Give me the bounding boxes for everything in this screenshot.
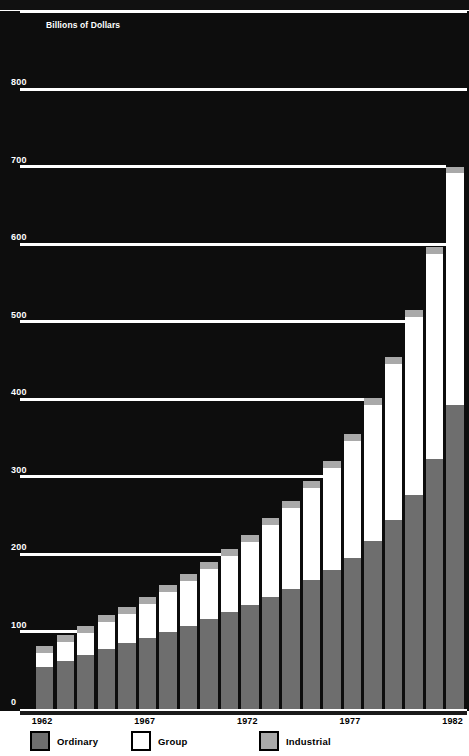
legend-swatch-industrial <box>259 731 279 751</box>
bar-segment-group <box>405 317 422 495</box>
bar-stack <box>57 635 74 709</box>
bar-segment-group <box>36 653 53 667</box>
bar-segment-industrial <box>364 398 381 405</box>
bar-segment-ordinary <box>139 638 156 709</box>
bar-segment-industrial <box>139 597 156 604</box>
bar-stack <box>303 481 320 709</box>
bar-segment-group <box>385 364 402 520</box>
bar-segment-industrial <box>221 549 238 556</box>
bar-segment-ordinary <box>159 632 176 709</box>
bar-segment-industrial <box>385 357 402 364</box>
bar-segment-group <box>159 592 176 632</box>
bar-segment-industrial <box>282 501 299 508</box>
x-axis-tick-label: 1982 <box>442 716 463 726</box>
bar-segment-industrial <box>323 461 340 468</box>
bar-stack <box>426 247 443 709</box>
bar-segment-ordinary <box>98 649 115 709</box>
bar-stack <box>282 501 299 709</box>
bar-stack <box>446 167 463 710</box>
bar-segment-group <box>426 254 443 459</box>
bar-segment-group <box>221 556 238 613</box>
bar-segment-industrial <box>426 247 443 254</box>
bar-stack <box>262 518 279 709</box>
bar-segment-industrial <box>262 518 279 525</box>
bar-segment-group <box>180 581 197 626</box>
bar-stack <box>385 357 402 709</box>
top-border-strip <box>0 0 469 11</box>
bar-segment-industrial <box>200 562 217 569</box>
legend-swatch-ordinary <box>30 731 50 751</box>
bar-segment-ordinary <box>323 570 340 709</box>
bar-segment-ordinary <box>364 541 381 709</box>
bar-segment-group <box>98 622 115 648</box>
bar-segment-group <box>200 569 217 619</box>
x-axis-rule <box>20 711 467 715</box>
bar-stack <box>200 562 217 709</box>
bar-segment-ordinary <box>446 405 463 709</box>
bar-stack <box>241 535 258 709</box>
chart-legend: OrdinaryGroupIndustrial <box>0 731 469 756</box>
bar-segment-ordinary <box>57 661 74 709</box>
bar-stack <box>77 626 94 709</box>
bar-segment-industrial <box>118 607 135 614</box>
bar-segment-group <box>57 642 74 661</box>
bar-segment-industrial <box>405 310 422 317</box>
bar-segment-industrial <box>241 535 258 542</box>
bar-segment-group <box>77 633 94 655</box>
bar-segment-ordinary <box>118 643 135 709</box>
bar-segment-group <box>323 468 340 570</box>
bar-segment-industrial <box>36 646 53 653</box>
legend-label-group: Group <box>158 736 188 747</box>
bar-segment-ordinary <box>77 655 94 709</box>
legend-item-industrial[interactable]: Industrial <box>259 731 331 751</box>
bar-segment-industrial <box>159 585 176 592</box>
bar-segment-ordinary <box>200 619 217 709</box>
bar-segment-group <box>446 173 463 405</box>
bar-segment-ordinary <box>282 589 299 709</box>
x-axis-tick-label: 1977 <box>340 716 361 726</box>
bar-stack <box>139 597 156 709</box>
bar-stack <box>344 434 361 709</box>
bar-stack <box>159 585 176 709</box>
bar-segment-group <box>303 488 320 579</box>
legend-item-ordinary[interactable]: Ordinary <box>30 731 98 751</box>
bar-segment-ordinary <box>221 612 238 709</box>
bar-segment-industrial <box>446 167 463 174</box>
bar-segment-group <box>364 405 381 541</box>
bar-segment-industrial <box>303 481 320 488</box>
x-axis-tick-label: 1972 <box>237 716 258 726</box>
bar-segment-group <box>241 542 258 605</box>
legend-item-group[interactable]: Group <box>131 731 188 751</box>
bar-stack <box>180 574 197 709</box>
bar-segment-industrial <box>77 626 94 633</box>
bar-stack <box>36 646 53 709</box>
bar-stack <box>405 310 422 709</box>
bar-segment-group <box>282 508 299 589</box>
bar-segment-group <box>118 614 135 643</box>
x-axis-tick-label: 1962 <box>32 716 53 726</box>
bars-group <box>0 11 469 711</box>
bar-stack <box>323 461 340 709</box>
chart-plot-area: 9008007006005004003002001000 Billions of… <box>0 11 469 711</box>
bar-segment-ordinary <box>241 605 258 709</box>
bar-segment-ordinary <box>344 558 361 709</box>
bar-segment-ordinary <box>180 626 197 709</box>
bar-segment-industrial <box>344 434 361 441</box>
legend-label-industrial: Industrial <box>286 736 331 747</box>
bar-segment-industrial <box>180 574 197 581</box>
bar-segment-industrial <box>57 635 74 642</box>
bar-segment-group <box>344 441 361 558</box>
bar-segment-ordinary <box>36 667 53 709</box>
bar-segment-group <box>139 604 156 639</box>
bar-stack <box>98 615 115 709</box>
bar-segment-industrial <box>98 615 115 622</box>
bar-stack <box>221 549 238 709</box>
legend-label-ordinary: Ordinary <box>57 736 98 747</box>
bar-segment-group <box>262 525 279 597</box>
bar-segment-ordinary <box>303 580 320 709</box>
x-axis-tick-label: 1967 <box>134 716 155 726</box>
bar-stack <box>118 607 135 709</box>
bar-segment-ordinary <box>405 495 422 709</box>
bar-stack <box>364 398 381 709</box>
bar-segment-ordinary <box>426 459 443 709</box>
